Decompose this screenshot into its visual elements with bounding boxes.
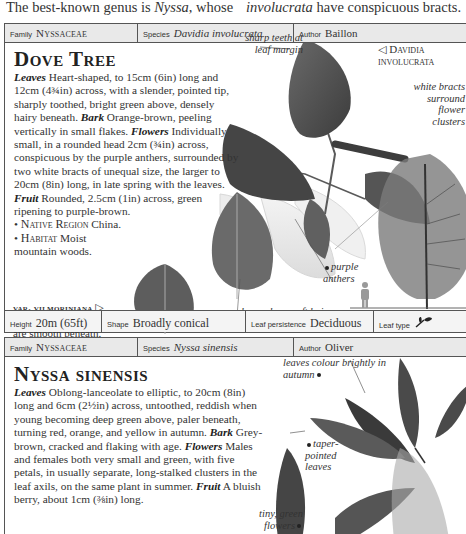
species-cell: Species Nyssa sinensis [138, 338, 294, 356]
entry-title: Dove Tree [14, 47, 116, 72]
entry-description: Leaves Heart-shaped, to 15cm (6in) long … [14, 71, 239, 259]
species-entry-dove-tree: Family Nyssaceae Species Davidia involuc… [4, 23, 466, 333]
author-cell: Author Baillon [294, 24, 466, 42]
bullet-dot [307, 443, 311, 447]
simple-leaf-icon [414, 316, 434, 328]
bullet-dot [325, 266, 329, 270]
annotation-purple-anthers: purple anthers [323, 261, 371, 284]
intro-right: involucrata have conspicuous bracts. [246, 0, 461, 14]
bullet-dot [297, 524, 301, 528]
author-cell: Author Oliver [294, 338, 466, 356]
entry-header: Family Nyssaceae Species Nyssa sinensis … [5, 338, 466, 357]
entry-header: Family Nyssaceae Species Davidia involuc… [5, 24, 466, 43]
annotation-white-bracts: white bracts surround flower clusters [405, 81, 465, 127]
entry-title: Nyssa sinensis [14, 362, 148, 387]
native-region: • Native Region China. [14, 218, 239, 231]
bullet: • [14, 218, 21, 230]
leaf-type-cell: Leaf type [374, 311, 466, 332]
height-cell: Height 20m (65ft) [5, 311, 102, 332]
shape-cell: Shape Broadly conical [102, 311, 246, 332]
bullet: • [14, 232, 21, 244]
main-caption: ◁ Davidia involucrata [378, 43, 466, 67]
species-label: Species [143, 30, 170, 39]
leaf-persistence-cell: Leaf persistence Deciduous [246, 311, 374, 332]
intro-left: The best-known genus is Nyssa, whose [6, 0, 233, 14]
species-entry-nyssa-sinensis: Family Nyssaceae Species Nyssa sinensis … [4, 337, 466, 534]
family-label: Family [10, 30, 32, 39]
family-cell: Family Nyssaceae [5, 338, 138, 356]
arrow-left-icon: ◁ [378, 43, 386, 55]
family-cell: Family Nyssaceae [5, 24, 138, 42]
intro-text: The best-known genus is Nyssa, whose inv… [0, 0, 466, 18]
entry-description: Leaves Oblong-lanceolate to elliptic, to… [14, 386, 266, 507]
annotation-taper-pointed: taper-pointed leaves [305, 438, 353, 473]
annotation-autumn-colour: leaves colour brightly in autumn [283, 357, 393, 380]
annotation-tiny-flowers: tiny, green flowers [255, 508, 303, 531]
bullet-dot [317, 373, 321, 377]
entry-footer: Height 20m (65ft) Shape Broadly conical … [5, 310, 466, 332]
family-value: Nyssaceae [36, 27, 87, 39]
habitat: • Habitat Moist mountain woods. [14, 232, 114, 259]
annotation-sharp-teeth: sharp teeth at leaf margin [245, 32, 303, 55]
author-value: Baillon [325, 27, 357, 39]
